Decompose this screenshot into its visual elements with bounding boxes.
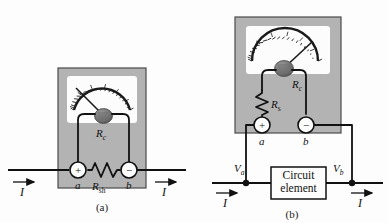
junction-node-a-b bbox=[243, 180, 249, 186]
label-current-right-b: I bbox=[357, 196, 363, 210]
meter-pivot-core-b bbox=[278, 64, 290, 73]
circuit-element-label-line1: Circuit bbox=[283, 169, 316, 181]
label-terminal-a-letter: a bbox=[75, 179, 81, 191]
meter-pivot-core-a bbox=[98, 112, 108, 120]
panel-a-group: Rc + − a b Rsh I I bbox=[8, 68, 186, 214]
label-terminal-a-letter-b: a bbox=[259, 135, 265, 147]
label-current-right-a: I bbox=[161, 185, 167, 199]
lead-wire-a-to-node-b bbox=[246, 125, 254, 183]
caption-panel-a: (a) bbox=[96, 201, 109, 214]
terminal-b-minus-sign: − bbox=[126, 164, 132, 176]
label-Va: Va bbox=[234, 162, 245, 177]
caption-panel-b: (b) bbox=[286, 208, 299, 221]
label-current-left-b: I bbox=[222, 196, 228, 210]
label-Vb: Vb bbox=[333, 162, 344, 177]
physics-figure-ammeter-voltmeter: Rc + − a b Rsh I I bbox=[0, 0, 388, 223]
label-terminal-b-letter-b: b bbox=[303, 135, 309, 147]
terminal-b-minus-sign-b: − bbox=[303, 119, 309, 131]
junction-node-b-b bbox=[349, 180, 355, 186]
terminal-a-plus-sign-b: + bbox=[259, 119, 265, 131]
circuit-element-label-line2: element bbox=[280, 182, 317, 194]
label-current-left-a: I bbox=[19, 185, 25, 199]
label-terminal-b-letter: b bbox=[126, 179, 132, 191]
terminal-a-plus-sign: + bbox=[75, 164, 81, 176]
panel-b-group: Rc Rs + − a b bbox=[212, 17, 383, 221]
figure-canvas: Rc + − a b Rsh I I bbox=[0, 0, 388, 223]
